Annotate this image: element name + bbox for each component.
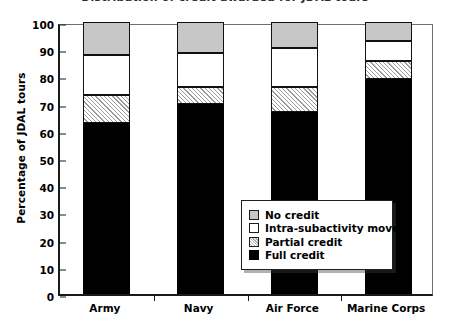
bar-army (83, 22, 130, 294)
y-tick-label-50: 50 (39, 155, 60, 167)
bar-segment-intra-subactivity-move (271, 48, 318, 87)
x-tick-label-marine-corps: Marine Corps (347, 302, 425, 314)
x-tick-mark-3 (341, 294, 342, 301)
bar-segment-full-credit (83, 123, 130, 294)
legend-swatch-black-icon (249, 250, 259, 260)
y-tick-label-80: 80 (39, 73, 60, 85)
y-tick-label-60: 60 (39, 128, 60, 140)
x-tick-label-navy: Navy (184, 302, 214, 314)
legend-item-intra-subactivity-move[interactable]: Intra-subactivity move (249, 222, 384, 234)
bar-segment-partial-credit (365, 61, 412, 79)
bar-segment-no-credit (365, 22, 412, 41)
bar-segment-no-credit (83, 22, 130, 55)
y-tick-mark-50 (60, 161, 66, 162)
bar-segment-partial-credit (177, 87, 224, 103)
y-tick-label-70: 70 (39, 101, 60, 113)
legend-item-full-credit[interactable]: Full credit (249, 249, 384, 261)
y-tick-label-0: 0 (47, 291, 60, 303)
y-tick-mark-70 (60, 106, 66, 107)
y-tick-label-10: 10 (39, 264, 60, 276)
y-tick-label-20: 20 (39, 237, 60, 249)
legend-swatch-hatch-icon (249, 237, 259, 247)
legend-swatch-white-icon (249, 223, 259, 233)
chart-title-cropped: Distribution of credit awarded for JDAL … (0, 0, 450, 3)
legend-label: Full credit (265, 249, 325, 261)
y-tick-mark-60 (60, 133, 66, 134)
y-tick-label-100: 100 (32, 19, 60, 31)
y-tick-mark-100 (60, 25, 66, 26)
x-tick-mark-1 (154, 294, 155, 301)
bar-segment-full-credit (177, 104, 224, 294)
y-tick-mark-80 (60, 79, 66, 80)
y-tick-mark-20 (60, 242, 66, 243)
legend-label: Partial credit (265, 236, 342, 248)
legend-item-partial-credit[interactable]: Partial credit (249, 236, 384, 248)
chart-legend[interactable]: No creditIntra-subactivity movePartial c… (241, 200, 393, 270)
y-tick-mark-40 (60, 188, 66, 189)
bar-segment-no-credit (177, 22, 224, 53)
bar-navy (177, 22, 224, 294)
bar-segment-intra-subactivity-move (177, 53, 224, 87)
y-tick-mark-30 (60, 215, 66, 216)
y-tick-mark-10 (60, 269, 66, 270)
y-tick-mark-0 (60, 297, 66, 298)
bar-segment-partial-credit (271, 87, 318, 111)
bar-segment-partial-credit (83, 95, 130, 122)
legend-label: Intra-subactivity move (265, 222, 399, 234)
y-tick-label-90: 90 (39, 46, 60, 58)
bar-segment-intra-subactivity-move (365, 41, 412, 61)
legend-item-no-credit[interactable]: No credit (249, 209, 384, 221)
y-tick-label-40: 40 (39, 182, 60, 194)
bar-segment-intra-subactivity-move (83, 55, 130, 96)
x-tick-mark-2 (248, 294, 249, 301)
y-tick-mark-90 (60, 52, 66, 53)
x-tick-label-air-force: Air Force (266, 302, 319, 314)
y-tick-label-30: 30 (39, 209, 60, 221)
chart-figure: Distribution of credit awarded for JDAL … (0, 0, 450, 326)
x-tick-label-army: Army (89, 302, 120, 314)
y-axis-label: Percentage of JDAL tours (15, 33, 27, 263)
bar-segment-no-credit (271, 22, 318, 48)
legend-label: No credit (265, 209, 319, 221)
legend-swatch-gray-icon (249, 210, 259, 220)
